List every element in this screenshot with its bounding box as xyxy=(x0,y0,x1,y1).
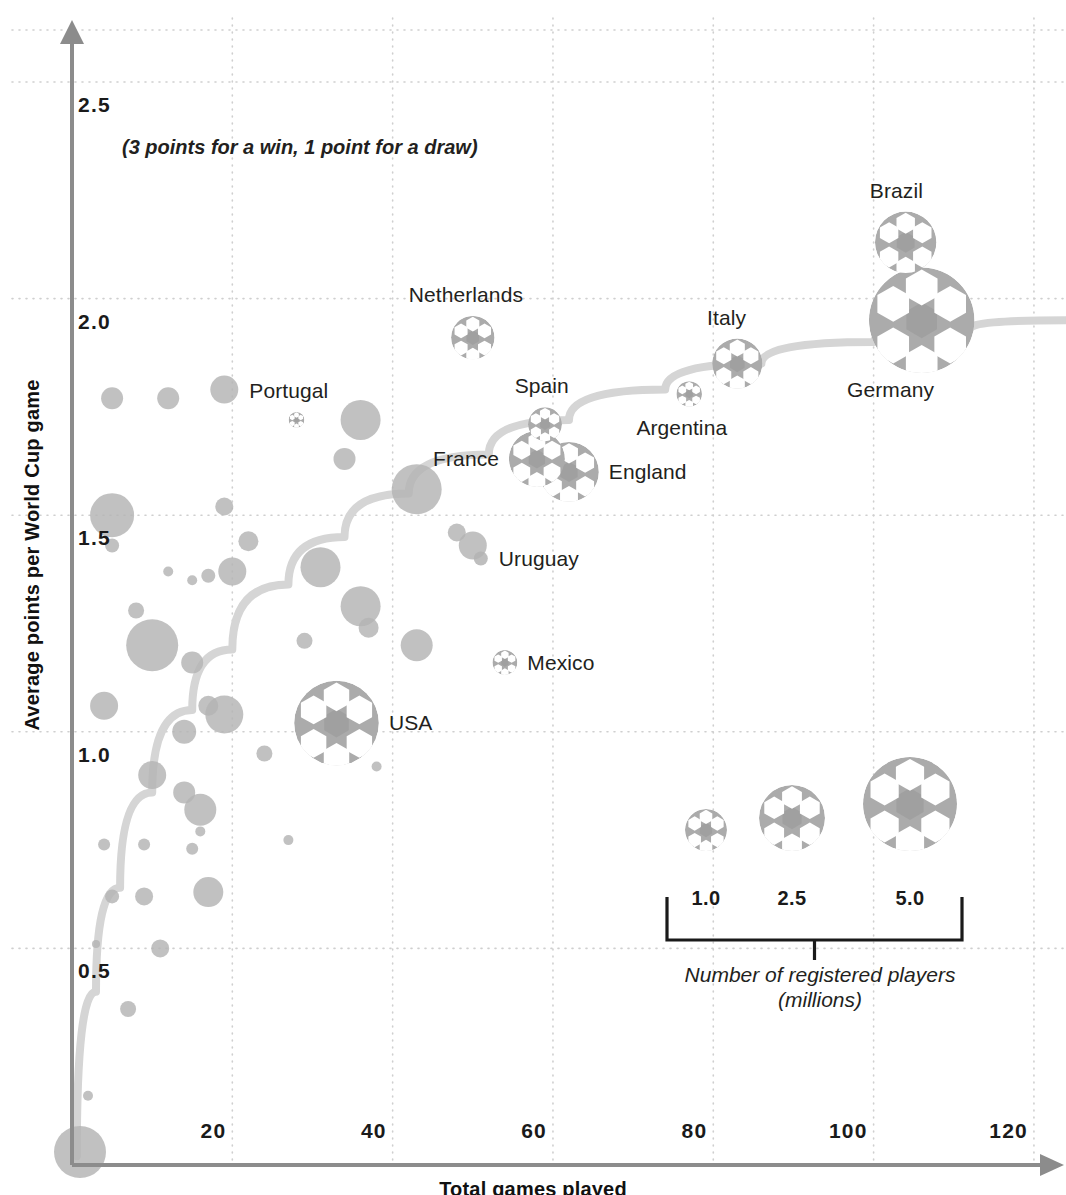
x-tick-20: 20 xyxy=(184,1120,226,1141)
legend-ball-2-5 xyxy=(759,785,825,856)
label-france: France xyxy=(433,448,499,469)
size-legend-caption-line1: Number of registered players xyxy=(655,963,985,988)
size-legend-caption: Number of registered players (millions) xyxy=(655,963,985,1013)
bubble-marker xyxy=(372,762,382,772)
bubble-marker xyxy=(193,877,223,907)
bubble-marker xyxy=(210,376,238,404)
y-tick-1-5: 1.5 xyxy=(78,527,111,548)
marker-netherlands xyxy=(451,316,494,363)
label-usa: USA xyxy=(389,712,432,733)
marker-mexico xyxy=(492,650,517,677)
label-spain: Spain xyxy=(515,375,569,396)
x-tick-80: 80 xyxy=(665,1120,707,1141)
label-germany: Germany xyxy=(847,379,934,400)
marker-portugal xyxy=(289,412,305,429)
y-axis-title: Average points per World Cup game xyxy=(22,345,42,765)
label-netherlands: Netherlands xyxy=(409,284,523,305)
label-england: England xyxy=(609,461,687,482)
plain-bubbles xyxy=(54,376,487,1178)
marker-usa xyxy=(294,681,379,772)
x-tick-120: 120 xyxy=(986,1120,1028,1141)
bubble-marker xyxy=(135,887,153,905)
bubble-marker xyxy=(359,618,379,638)
legend-value-1-0: 1.0 xyxy=(682,888,730,908)
bubble-marker xyxy=(120,1001,136,1017)
label-brazil: Brazil xyxy=(870,180,923,201)
label-uruguay: Uruguay xyxy=(499,548,579,569)
bubble-marker xyxy=(297,633,313,649)
size-legend-caption-line2: (millions) xyxy=(655,988,985,1013)
marker-italy xyxy=(712,338,762,392)
bubble-marker xyxy=(128,603,144,619)
marker-germany xyxy=(869,267,975,380)
bubble-marker xyxy=(238,531,258,551)
bubble-marker xyxy=(186,843,198,855)
x-tick-60: 60 xyxy=(505,1120,547,1141)
legend-ball-1-0 xyxy=(685,809,727,854)
x-axis-title: Total games played xyxy=(0,1179,1066,1195)
bubble-marker xyxy=(341,400,381,440)
bubble-marker xyxy=(195,826,205,836)
bubble-marker xyxy=(151,939,169,957)
marker-uruguay xyxy=(474,552,488,566)
scoring-note: (3 points for a win, 1 point for a draw) xyxy=(122,137,478,157)
bubble-marker xyxy=(138,838,150,850)
legend-value-2-5: 2.5 xyxy=(768,888,816,908)
label-italy: Italy xyxy=(707,307,746,328)
x-tick-40: 40 xyxy=(345,1120,387,1141)
bubble-marker xyxy=(334,448,356,470)
bubble-marker xyxy=(218,558,246,586)
bubble-marker xyxy=(201,569,215,583)
bubble-marker xyxy=(83,1091,93,1101)
y-tick-2-5: 2.5 xyxy=(78,94,111,115)
bubble-marker xyxy=(283,835,293,845)
marker-brazil xyxy=(875,212,936,278)
y-tick-1-0: 1.0 xyxy=(78,744,111,765)
label-argentina: Argentina xyxy=(636,417,727,438)
y-tick-2-0: 2.0 xyxy=(78,311,111,332)
label-portugal: Portugal xyxy=(249,380,328,401)
bubble-marker xyxy=(90,692,118,720)
y-axis-arrowhead xyxy=(60,20,84,44)
bubble-marker xyxy=(138,761,166,789)
bubble-marker xyxy=(401,629,433,661)
bubble-marker xyxy=(105,889,119,903)
y-tick-0-5: 0.5 xyxy=(78,960,111,981)
bubble-marker xyxy=(205,696,243,734)
bubble-marker xyxy=(181,652,203,674)
bubble-marker xyxy=(392,464,442,514)
bubble-marker xyxy=(126,619,178,671)
bubble-marker xyxy=(98,838,110,850)
bubble-marker xyxy=(163,567,173,577)
bubble-marker xyxy=(187,575,197,585)
bubble-marker xyxy=(301,547,341,587)
bubble-marker xyxy=(184,794,216,826)
bubble-marker xyxy=(101,387,123,409)
bubble-marker xyxy=(172,720,196,744)
legend-ball-5-0 xyxy=(863,757,957,858)
bubble-marker xyxy=(157,387,179,409)
bubble-marker xyxy=(92,940,100,948)
marker-argentina xyxy=(676,381,702,408)
bubble-marker xyxy=(256,746,272,762)
x-axis-arrowhead xyxy=(1040,1154,1064,1176)
bubble-marker xyxy=(215,498,233,516)
size-legend-marks xyxy=(667,757,962,960)
x-tick-100: 100 xyxy=(826,1120,868,1141)
legend-value-5-0: 5.0 xyxy=(886,888,934,908)
label-mexico: Mexico xyxy=(527,652,594,673)
chart-canvas: 2.52.01.51.00.5 20406080100120 BrazilGer… xyxy=(0,0,1066,1195)
bubble-marker xyxy=(54,1126,106,1178)
